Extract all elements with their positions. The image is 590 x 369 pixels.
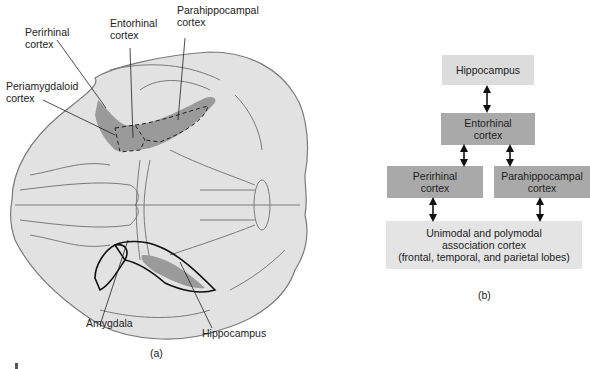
box-association-cortex: Unimodal and polymodal association corte… [386,221,582,269]
figure-marker [15,363,18,369]
label-periamygdaloid: Periamygdaloid cortex [6,80,78,104]
label-hippocampus: Hippocampus [202,327,266,339]
caption-b: (b) [478,289,491,301]
box-perirhinal-cortex: Perirhinal cortex [387,166,483,198]
box-parahippocampal-cortex: Parahippocampal cortex [494,166,590,198]
label-amygdala: Amygdala [86,317,133,329]
label-entorhinal: Entorhinal cortex [110,17,157,41]
box-entorhinal-cortex: Entorhinal cortex [441,113,535,145]
caption-a: (a) [150,347,163,359]
label-parahippocampal: Parahippocampal cortex [177,4,259,28]
box-hippocampus: Hippocampus [442,55,534,85]
label-perirhinal: Perirhinal cortex [25,26,69,50]
